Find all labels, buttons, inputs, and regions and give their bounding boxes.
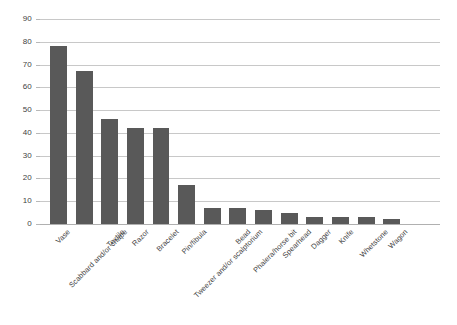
x-axis-tick: Scabbard and/or chape: [71, 226, 97, 325]
x-axis-tick-label: Wagon: [387, 228, 409, 250]
x-axis-tick: Dagger: [302, 226, 328, 325]
y-axis-tick-label: 20: [23, 174, 32, 182]
bar: [229, 208, 246, 224]
x-axis-tick: Spearhead: [276, 226, 302, 325]
gridline: [40, 224, 440, 225]
x-axis-tick: Phalera/horse bit: [251, 226, 277, 325]
bar: [50, 46, 67, 224]
x-axis-tick: Whetstone: [353, 226, 379, 325]
y-axis-tick-label: 60: [23, 83, 32, 91]
y-axis-tick-label: 80: [23, 38, 32, 46]
x-axis-tick-label: Bead: [234, 228, 252, 246]
x-axis: VaseScabbard and/or chapeTextileRazorBra…: [40, 226, 440, 325]
bar: [178, 185, 195, 224]
x-axis-tick: Knife: [328, 226, 354, 325]
x-axis-tick: Vase: [46, 226, 72, 325]
x-axis-tick-label: Knife: [337, 228, 355, 246]
bar: [383, 219, 400, 224]
y-axis-tick-label: 10: [23, 197, 32, 205]
y-axis-tick-label: 40: [23, 129, 32, 137]
y-axis-tick-label: 90: [23, 15, 32, 23]
x-axis-tick: Tweezer and/or scalptorium: [199, 226, 225, 325]
x-axis-tick: Pin/fibula: [174, 226, 200, 325]
y-axis-tick-label: 0: [27, 220, 32, 228]
bar: [281, 213, 298, 224]
y-axis-tick-mark: [36, 224, 40, 225]
bar: [332, 217, 349, 224]
bar: [358, 217, 375, 224]
bar: [306, 217, 323, 224]
x-axis-tick-label: Vase: [55, 228, 72, 245]
y-axis-tick-label: 50: [23, 106, 32, 114]
y-axis-tick-label: 70: [23, 61, 32, 69]
y-axis-tick-label: 30: [23, 152, 32, 160]
bar: [255, 210, 272, 224]
plot-area: [40, 19, 440, 224]
y-axis: 9080706050403020100: [0, 19, 32, 224]
x-axis-tick: Bracelet: [148, 226, 174, 325]
x-axis-tick: Textile: [97, 226, 123, 325]
bar: [204, 208, 221, 224]
bar-chart: 9080706050403020100 VaseScabbard and/or …: [0, 0, 457, 325]
x-axis-tick: Wagon: [379, 226, 405, 325]
bar: [101, 119, 118, 224]
x-axis-tick: Bead: [225, 226, 251, 325]
bar: [153, 128, 170, 224]
x-axis-tick: Razor: [123, 226, 149, 325]
bar: [76, 71, 93, 224]
bar-series: [40, 19, 440, 224]
bar: [127, 128, 144, 224]
